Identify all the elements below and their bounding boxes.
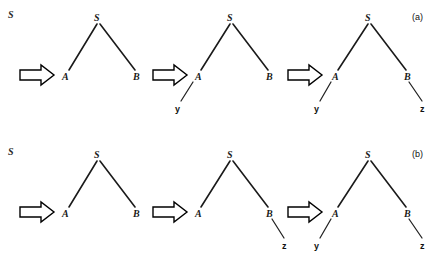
arrow-right-icon [20, 202, 54, 222]
node-s: S [227, 149, 233, 160]
terminal-z: z [420, 241, 425, 251]
row-a-stage-1-tree: S A B [61, 12, 140, 82]
branch-a-y [320, 219, 331, 238]
node-a: A [331, 208, 339, 219]
terminal-y: y [314, 104, 319, 114]
branch-s-a [69, 161, 97, 207]
row-b-stage-2-tree: S A B z [194, 149, 287, 251]
branch-b-z [272, 219, 284, 238]
branch-s-b [233, 161, 268, 207]
branch-s-b [371, 161, 406, 207]
node-b: B [403, 208, 411, 219]
node-b: B [132, 208, 140, 219]
branch-s-a [338, 161, 368, 207]
branch-s-a [338, 24, 368, 70]
derivation-figure: S (a) S A B S A B y [0, 0, 444, 266]
node-a: A [61, 71, 69, 82]
node-a: A [194, 208, 202, 219]
row-b-arrow-3 [288, 202, 322, 222]
branch-s-b [100, 24, 135, 70]
branch-s-a [69, 24, 97, 70]
row-a-stage-3-tree: S A B y z [314, 12, 425, 114]
node-s: S [227, 12, 233, 23]
node-a: A [61, 208, 69, 219]
arrow-right-icon [153, 65, 187, 85]
row-b-stage-1-tree: S A B [61, 149, 140, 219]
row-b-arrow-2 [153, 202, 187, 222]
node-s: S [94, 149, 100, 160]
row-b-start-symbol: S [8, 146, 14, 157]
node-s: S [365, 12, 371, 23]
arrow-right-icon [288, 65, 322, 85]
node-s: S [365, 149, 371, 160]
terminal-y: y [314, 241, 319, 251]
branch-s-b [233, 24, 268, 70]
row-a-arrow-1 [20, 65, 54, 85]
row-b-caption: (b) [412, 149, 423, 159]
node-b: B [265, 71, 273, 82]
arrow-right-icon [288, 202, 322, 222]
node-b: B [132, 71, 140, 82]
row-a-arrow-2 [153, 65, 187, 85]
row-a-start-symbol: S [8, 9, 14, 20]
branch-s-a [201, 24, 230, 70]
row-a-stage-2-tree: S A B y [175, 12, 273, 114]
branch-s-b [371, 24, 406, 70]
branch-a-y [181, 82, 193, 101]
node-a: A [331, 71, 339, 82]
branch-a-y [320, 82, 331, 101]
row-b: S (b) S A B S A B z [8, 146, 425, 251]
terminal-y: y [175, 104, 180, 114]
row-b-arrow-1 [20, 202, 54, 222]
arrow-right-icon [153, 202, 187, 222]
row-b-stage-3-tree: S A B y z [314, 149, 425, 251]
node-b: B [403, 71, 411, 82]
arrow-right-icon [20, 65, 54, 85]
branch-s-a [201, 161, 230, 207]
row-a: S (a) S A B S A B y [8, 9, 425, 114]
terminal-z: z [420, 104, 425, 114]
node-b: B [265, 208, 273, 219]
branch-s-b [100, 161, 135, 207]
branch-b-z [409, 219, 422, 238]
branch-b-z [409, 82, 422, 101]
node-a: A [194, 71, 202, 82]
row-a-caption: (a) [412, 12, 423, 22]
node-s: S [94, 12, 100, 23]
row-a-arrow-3 [288, 65, 322, 85]
terminal-z: z [282, 241, 287, 251]
